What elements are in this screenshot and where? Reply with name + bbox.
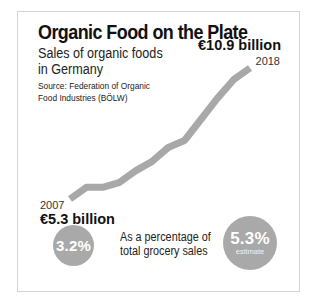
share-2018-note: estimate bbox=[236, 247, 264, 256]
share-2018-value: 5.3% bbox=[230, 230, 270, 247]
start-year-label: 2007 bbox=[40, 199, 64, 211]
share-circle-2018: 5.3% estimate bbox=[223, 216, 277, 270]
credit-watermark bbox=[272, 108, 282, 173]
share-2007-value: 3.2% bbox=[56, 238, 91, 254]
sales-line bbox=[70, 68, 250, 199]
share-label: As a percentage of total grocery sales bbox=[120, 231, 211, 258]
share-circle-2007: 3.2% bbox=[53, 225, 94, 266]
share-label-line-1: As a percentage of bbox=[120, 231, 211, 245]
share-label-line-2: total grocery sales bbox=[120, 245, 211, 259]
